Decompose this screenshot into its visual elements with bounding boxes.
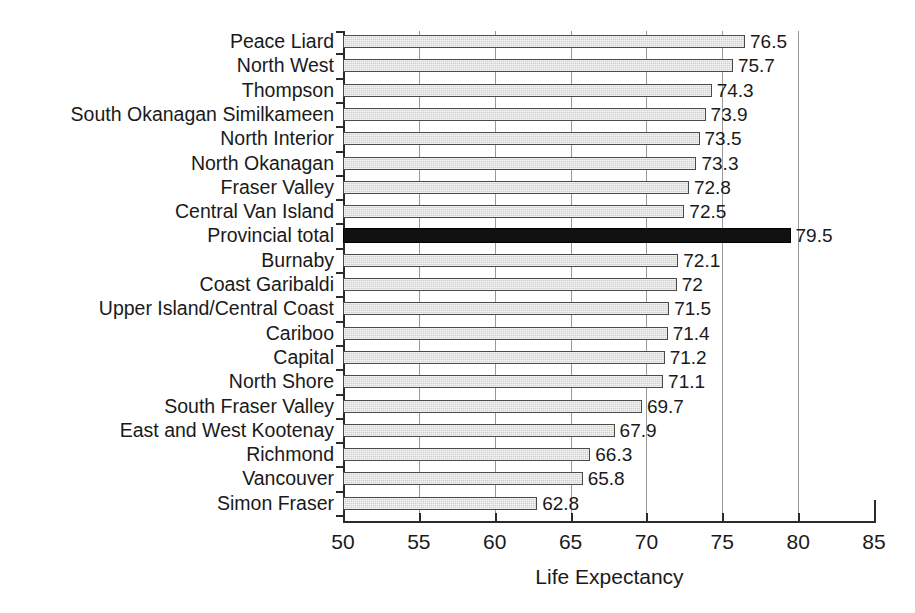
category-label: Simon Fraser <box>0 493 334 513</box>
bar <box>343 132 700 145</box>
bar-row: Central Van Island72.5 <box>0 201 915 225</box>
category-label: Upper Island/Central Coast <box>0 298 334 318</box>
bar-value-label: 71.4 <box>673 324 710 344</box>
y-axis-tick <box>336 442 344 444</box>
y-axis-tick <box>336 345 344 347</box>
bar-value-label: 73.3 <box>701 154 738 174</box>
y-axis-tick <box>336 78 344 80</box>
bar-row: Provincial total79.5 <box>0 225 915 249</box>
y-axis-tick <box>336 248 344 250</box>
x-axis-tick-80 <box>798 513 800 522</box>
category-label: North Shore <box>0 371 334 391</box>
y-axis-tick <box>336 369 344 371</box>
category-label: Peace Liard <box>0 31 334 51</box>
bar-value-label: 66.3 <box>595 445 632 465</box>
x-axis-tick-75 <box>722 513 724 522</box>
y-axis-tick <box>336 175 344 177</box>
bar-row: South Fraser Valley69.7 <box>0 396 915 420</box>
category-label: Fraser Valley <box>0 177 334 197</box>
bar <box>343 84 712 97</box>
bar <box>343 181 689 194</box>
category-label: Vancouver <box>0 468 334 488</box>
bar <box>343 59 733 72</box>
bar-row: Burnaby72.1 <box>0 250 915 274</box>
bar-row: South Okanagan Similkameen73.9 <box>0 104 915 128</box>
y-axis-tick <box>336 515 344 517</box>
bar <box>343 472 583 485</box>
bar-row: Fraser Valley72.8 <box>0 177 915 201</box>
bar-row: Richmond66.3 <box>0 444 915 468</box>
bar <box>343 108 706 121</box>
bar-row: Thompson74.3 <box>0 80 915 104</box>
x-axis-tick-label-85: 85 <box>862 530 885 554</box>
y-axis-tick <box>336 466 344 468</box>
bar-row: Upper Island/Central Coast71.5 <box>0 298 915 322</box>
category-label: East and West Kootenay <box>0 420 334 440</box>
bar-row: Coast Garibaldi72 <box>0 274 915 298</box>
bar <box>343 375 663 388</box>
bar-value-label: 79.5 <box>796 226 833 246</box>
category-label: Cariboo <box>0 323 334 343</box>
y-axis-tick <box>336 53 344 55</box>
category-label: Richmond <box>0 444 334 464</box>
x-axis-tick-55 <box>419 513 421 522</box>
bar-row: East and West Kootenay67.9 <box>0 420 915 444</box>
bar-value-label: 71.5 <box>674 299 711 319</box>
category-label: South Fraser Valley <box>0 396 334 416</box>
x-axis-tick-label-80: 80 <box>786 530 809 554</box>
y-axis-tick <box>336 272 344 274</box>
category-label: South Okanagan Similkameen <box>0 104 334 124</box>
y-axis-tick <box>336 199 344 201</box>
bar <box>343 351 665 364</box>
bar-value-label: 76.5 <box>750 32 787 52</box>
bar <box>343 327 668 340</box>
bar-value-label: 69.7 <box>647 397 684 417</box>
category-label: Central Van Island <box>0 201 334 221</box>
x-axis-tick-label-75: 75 <box>711 530 734 554</box>
x-axis-tick-70 <box>646 513 648 522</box>
y-axis-tick <box>336 223 344 225</box>
category-label: North Interior <box>0 128 334 148</box>
y-axis-tick <box>336 321 344 323</box>
bar <box>343 205 684 218</box>
category-label: North Okanagan <box>0 153 334 173</box>
bar-value-label: 72.5 <box>689 202 726 222</box>
bar-value-label: 74.3 <box>717 81 754 101</box>
bar-highlight <box>343 228 791 243</box>
bar-value-label: 62.8 <box>542 494 579 514</box>
x-axis-line <box>343 521 876 523</box>
bar-value-label: 71.2 <box>670 348 707 368</box>
bar-row: North Okanagan73.3 <box>0 153 915 177</box>
bar <box>343 302 669 315</box>
x-axis-title: Life Expectancy <box>343 565 876 589</box>
bar-value-label: 72.8 <box>694 178 731 198</box>
y-axis-tick <box>336 151 344 153</box>
category-label: Coast Garibaldi <box>0 274 334 294</box>
bar-value-label: 73.5 <box>705 129 742 149</box>
y-axis-tick <box>336 102 344 104</box>
x-axis-tick-65 <box>571 513 573 522</box>
category-label: North West <box>0 55 334 75</box>
bar <box>343 278 677 291</box>
y-axis-tick <box>336 418 344 420</box>
bar-row: North Interior73.5 <box>0 128 915 152</box>
bar-row: North Shore71.1 <box>0 371 915 395</box>
x-axis-tick-label-70: 70 <box>635 530 658 554</box>
category-label: Provincial total <box>0 225 334 245</box>
bar-value-label: 65.8 <box>588 469 625 489</box>
category-label: Thompson <box>0 80 334 100</box>
x-axis-tick-60 <box>495 513 497 522</box>
bar-value-label: 72 <box>682 275 703 295</box>
x-axis-tick-85 <box>874 513 876 522</box>
bar-row: Simon Fraser62.8 <box>0 493 915 517</box>
x-axis-tick-label-50: 50 <box>331 530 354 554</box>
x-axis-tick-label-55: 55 <box>407 530 430 554</box>
category-label: Burnaby <box>0 250 334 270</box>
bar-value-label: 73.9 <box>711 105 748 125</box>
category-label: Capital <box>0 347 334 367</box>
bar <box>343 424 615 437</box>
bar <box>343 254 678 267</box>
bar-value-label: 67.9 <box>620 421 657 441</box>
bar-row: Peace Liard76.5 <box>0 31 915 55</box>
bar-row: Vancouver65.8 <box>0 468 915 492</box>
